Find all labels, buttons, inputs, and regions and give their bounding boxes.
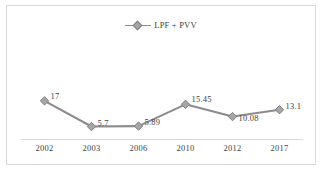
x-axis-tick-label: 2017: [271, 143, 289, 153]
x-axis-tick-label: 2010: [177, 143, 195, 153]
data-point-value-label: 15.45: [192, 94, 212, 104]
data-point-marker: [87, 122, 95, 130]
x-axis-tick-label: 2003: [83, 143, 101, 153]
data-point-marker: [228, 112, 236, 120]
x-axis-tick-label: 2012: [224, 143, 242, 153]
x-axis-tick-labels: 200220032006201020122017: [7, 143, 317, 161]
data-point-value-label: 17: [51, 91, 60, 101]
data-point-value-label: 5.7: [98, 118, 109, 128]
line-chart-svg: [7, 6, 317, 166]
chart-frame: LPF + PVV 175.75.8915.4510.0813.1 200220…: [6, 5, 316, 165]
data-point-marker: [40, 97, 48, 105]
x-axis-tick-label: 2006: [130, 143, 148, 153]
data-point-marker: [275, 106, 283, 114]
data-point-value-label: 10.08: [239, 113, 259, 123]
data-point-marker: [181, 100, 189, 108]
x-axis-tick-label: 2002: [36, 143, 54, 153]
data-point-value-label: 13.1: [286, 101, 302, 111]
data-point-value-label: 5.89: [145, 117, 161, 127]
plot-area: [7, 6, 317, 166]
data-point-marker: [134, 122, 142, 130]
